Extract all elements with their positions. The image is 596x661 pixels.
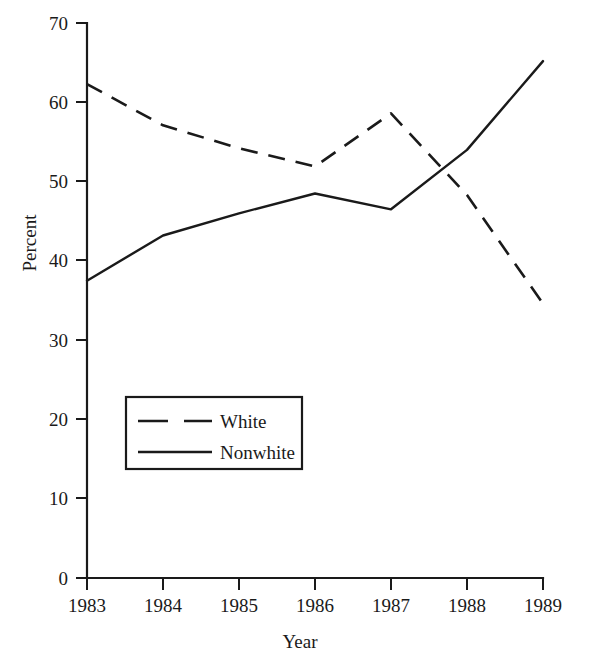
y-tick-label-30: 30 [49, 330, 68, 351]
line-chart: 70 60 50 40 30 20 10 0 Percent [0, 0, 596, 661]
y-axis-title: Percent [19, 214, 40, 272]
x-tick-label-1987: 1987 [372, 595, 410, 616]
y-axis-tick-labels: 70 60 50 40 30 20 10 0 [49, 13, 68, 589]
data-series-group [87, 61, 543, 304]
x-tick-label-1989: 1989 [524, 595, 562, 616]
series-line-nonwhite [87, 61, 543, 281]
y-tick-label-10: 10 [49, 488, 68, 509]
chart-plot-area: 70 60 50 40 30 20 10 0 Percent [0, 0, 596, 661]
legend-label-nonwhite: Nonwhite [220, 442, 295, 463]
x-tick-label-1985: 1985 [220, 595, 258, 616]
x-tick-label-1984: 1984 [144, 595, 183, 616]
y-tick-label-60: 60 [49, 92, 68, 113]
chart-legend: White Nonwhite [126, 397, 302, 469]
x-axis: 1983 1984 1985 1986 1987 1988 1989 Year [68, 578, 562, 652]
y-tick-label-40: 40 [49, 250, 68, 271]
y-axis-ticks [76, 23, 87, 578]
y-tick-label-0: 0 [59, 568, 69, 589]
x-axis-tick-labels: 1983 1984 1985 1986 1987 1988 1989 [68, 595, 562, 616]
x-tick-label-1988: 1988 [448, 595, 486, 616]
y-tick-label-50: 50 [49, 171, 68, 192]
legend-label-white: White [220, 411, 266, 432]
y-tick-label-70: 70 [49, 13, 68, 34]
x-tick-label-1986: 1986 [296, 595, 334, 616]
x-axis-ticks [87, 578, 543, 590]
x-tick-label-1983: 1983 [68, 595, 106, 616]
x-axis-title: Year [282, 631, 318, 652]
y-axis: 70 60 50 40 30 20 10 0 Percent [19, 13, 87, 589]
y-tick-label-20: 20 [49, 409, 68, 430]
